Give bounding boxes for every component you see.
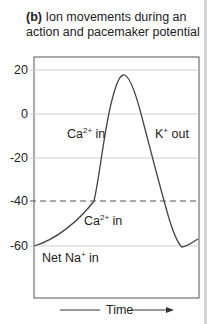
y-tick: -40 — [10, 194, 28, 208]
chart: 20 0 -20 -40 -60 Ca2+ in K+ out Ca2+ in … — [0, 0, 211, 324]
y-axis-ticks: 20 0 -20 -40 -60 — [10, 63, 28, 253]
x-axis-label: Time — [106, 303, 133, 317]
y-tick: 0 — [21, 107, 28, 121]
label-ca-in-upper: Ca2+ in — [67, 126, 105, 141]
label-net-na-in: Net Na+ in — [42, 250, 99, 265]
y-tick: 20 — [14, 63, 28, 77]
x-axis-time: Time — [60, 303, 174, 317]
label-ca-in-lower: Ca2+ in — [84, 213, 122, 228]
y-tick: -60 — [10, 239, 28, 253]
arrow-right-icon — [166, 307, 174, 313]
label-k-out: K+ out — [155, 126, 189, 141]
y-tick: -20 — [10, 151, 28, 165]
